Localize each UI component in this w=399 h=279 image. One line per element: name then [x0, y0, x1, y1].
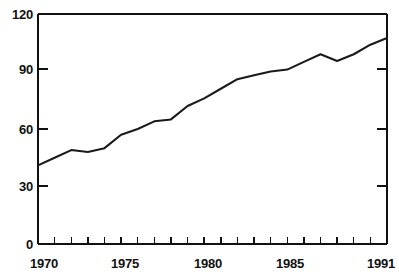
x-axis-label-1975: 1975	[111, 256, 139, 271]
x-axis-label-1991: 1991	[367, 256, 395, 271]
y-axis-label-90: 90	[19, 62, 33, 77]
chart-container: 120 90 60 30 0 1970 1975 1980 1985 1991	[0, 0, 399, 279]
y-axis-label-0: 0	[26, 237, 33, 252]
y-axis-label-120: 120	[12, 7, 33, 22]
x-axis-label-1970: 1970	[30, 256, 58, 271]
y-axis-label-30: 30	[19, 179, 33, 194]
y-tick-labels: 120 90 60 30 0	[12, 7, 33, 252]
x-tick-labels: 1970 1975 1980 1985 1991	[30, 256, 395, 271]
y-axis-label-60: 60	[19, 122, 33, 137]
line-chart: 120 90 60 30 0 1970 1975 1980 1985 1991	[0, 0, 399, 279]
x-axis-label-1985: 1985	[276, 256, 304, 271]
plot-background	[38, 14, 387, 244]
x-axis-label-1980: 1980	[194, 256, 222, 271]
